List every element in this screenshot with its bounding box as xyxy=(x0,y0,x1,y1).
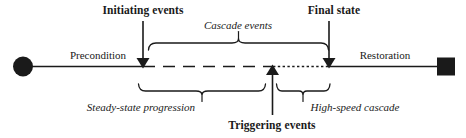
cascade-events-label: Cascade events xyxy=(204,20,272,31)
restoration-label: Restoration xyxy=(360,50,411,61)
final-state-label: Final state xyxy=(308,5,361,17)
start-marker-circle xyxy=(13,57,33,77)
initiating-events-label: Initiating events xyxy=(102,5,183,17)
precondition-label: Precondition xyxy=(70,50,126,61)
end-marker-square xyxy=(437,58,455,76)
high-speed-cascade-label: High-speed cascade xyxy=(311,102,400,113)
final-state-arrow xyxy=(323,21,336,69)
triggering-events-label: Triggering events xyxy=(228,120,315,132)
steady-state-progression-label: Steady-state progression xyxy=(87,102,195,113)
cascade-events-bracket xyxy=(149,32,329,51)
process-timeline-diagram: Initiating events Final state Cascade ev… xyxy=(0,0,466,138)
high-speed-cascade-bracket xyxy=(277,84,331,102)
initiating-events-arrow xyxy=(137,21,150,69)
steady-state-progression-bracket xyxy=(139,84,266,102)
triggering-events-arrow xyxy=(266,65,279,116)
